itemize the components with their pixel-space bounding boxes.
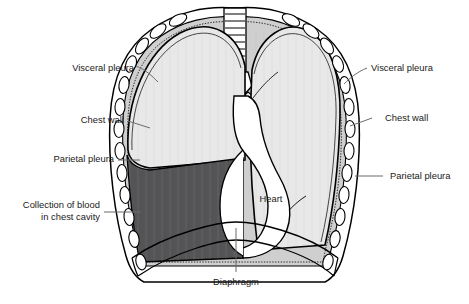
label-chest-wall-right: Chest wall — [385, 112, 428, 124]
label-collection-line2: in chest cavity — [2, 211, 100, 223]
label-parietal-pleura-left: Parietal pleura — [6, 153, 114, 165]
label-parietal-pleura-right: Parietal pleura — [390, 170, 450, 182]
label-visceral-pleura-left: Visceral pleura — [10, 62, 134, 74]
label-chest-wall-left: Chest wall — [10, 114, 124, 126]
thorax-cross-section-illustration — [0, 0, 469, 304]
label-collection-line1: Collection of blood — [2, 199, 100, 211]
diagram-canvas: Visceral pleura Chest wall Parietal pleu… — [0, 0, 469, 304]
label-diaphragm: Diaphragm — [196, 276, 276, 288]
label-visceral-pleura-right: Visceral pleura — [371, 62, 433, 74]
label-heart: Heart — [243, 193, 299, 205]
